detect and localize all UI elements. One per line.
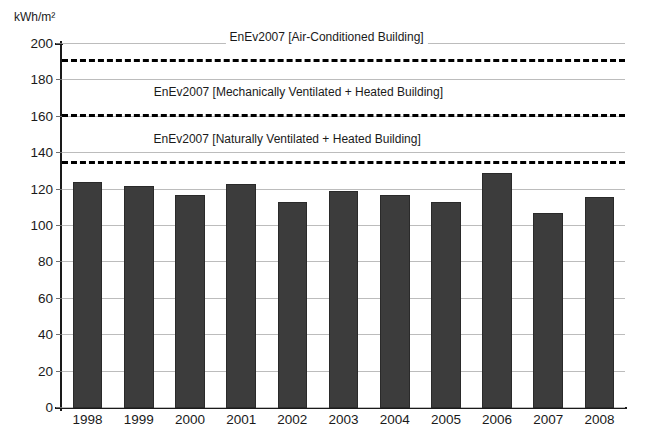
y-tick-label: 20 — [38, 363, 53, 378]
bar-2006[interactable] — [482, 173, 512, 408]
x-tick-label-2007: 2007 — [523, 412, 574, 427]
x-tick-label-2002: 2002 — [267, 412, 318, 427]
x-tick-label-1998: 1998 — [62, 412, 113, 427]
reference-line-label: EnEv2007 [Naturally Ventilated + Heated … — [150, 132, 425, 147]
x-tick-label-2004: 2004 — [369, 412, 420, 427]
y-tick-label: 180 — [30, 72, 53, 87]
y-tick-label: 0 — [45, 400, 53, 415]
reference-line — [62, 114, 625, 117]
x-tick-label-2006: 2006 — [472, 412, 523, 427]
y-tick-label: 100 — [30, 218, 53, 233]
x-axis-labels: 1998199920002001200220032004200520062007… — [62, 412, 625, 427]
y-tick-label: 60 — [38, 290, 53, 305]
bar-slot — [62, 44, 113, 408]
y-tick-label: 160 — [30, 108, 53, 123]
y-tick-label: 40 — [38, 327, 53, 342]
reference-line-label: EnEv2007 [Mechanically Ventilated + Heat… — [150, 85, 447, 100]
reference-line — [62, 59, 625, 62]
x-tick-label-2005: 2005 — [420, 412, 471, 427]
bar-1998[interactable] — [73, 182, 103, 408]
x-tick-label-2001: 2001 — [216, 412, 267, 427]
bar-chart: kWh/m² 020406080100120140160180200 EnEv2… — [0, 0, 646, 444]
x-tick-label-2003: 2003 — [318, 412, 369, 427]
y-tick-label: 80 — [38, 254, 53, 269]
bar-2007[interactable] — [533, 213, 563, 408]
bar-slot — [574, 44, 625, 408]
x-tick-label-1999: 1999 — [113, 412, 164, 427]
bar-2002[interactable] — [278, 202, 308, 408]
bar-2005[interactable] — [431, 202, 461, 408]
y-tick-label: 200 — [30, 36, 53, 51]
y-tick-label: 140 — [30, 145, 53, 160]
bar-2000[interactable] — [175, 195, 205, 408]
reference-line — [62, 161, 625, 164]
bar-2004[interactable] — [380, 195, 410, 408]
reference-line-label: EnEv2007 [Air-Conditioned Building] — [226, 30, 428, 45]
bar-2001[interactable] — [226, 184, 256, 408]
y-axis-unit-label: kWh/m² — [14, 10, 55, 24]
y-tick-label: 120 — [30, 181, 53, 196]
x-tick-label-2008: 2008 — [574, 412, 625, 427]
bar-2003[interactable] — [329, 191, 359, 408]
bar-1999[interactable] — [124, 186, 154, 408]
x-tick-label-2000: 2000 — [164, 412, 215, 427]
bottom-caption — [0, 430, 646, 444]
bar-slot — [472, 44, 523, 408]
plot-area: 020406080100120140160180200 EnEv2007 [Ai… — [62, 44, 625, 408]
bar-slot — [523, 44, 574, 408]
bar-2008[interactable] — [585, 197, 615, 408]
